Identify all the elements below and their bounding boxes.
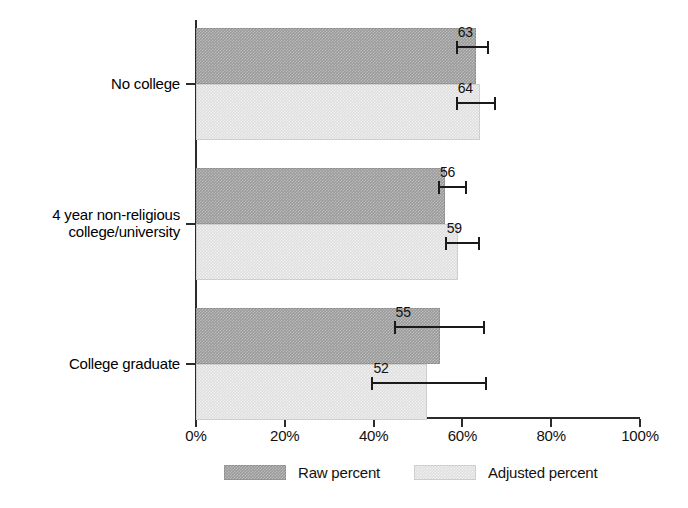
x-tick-label: 100% — [621, 427, 659, 444]
x-tick-label: 20% — [270, 427, 299, 444]
value-label-adjusted-0: 64 — [458, 80, 473, 96]
y-tick-1 — [186, 223, 195, 225]
x-tick-label: 60% — [448, 427, 477, 444]
error-bar-cap-adjusted-2 — [371, 377, 373, 390]
error-bar-cap-raw-2 — [483, 321, 485, 334]
error-bar-line-raw-1 — [438, 186, 467, 188]
y-tick-0 — [186, 83, 195, 85]
x-tick-0 — [195, 419, 197, 427]
legend-swatch-adjusted-percent — [414, 465, 476, 480]
bar-chart: 0%20%40%60%80%100% No college4 year non-… — [0, 0, 688, 508]
error-bar-cap-adjusted-0 — [494, 97, 496, 110]
error-bar-cap-raw-0 — [487, 41, 489, 54]
error-bar-cap-raw-1 — [438, 181, 440, 194]
error-bar-cap-adjusted-1 — [445, 237, 447, 250]
error-bar-cap-adjusted-1 — [478, 237, 480, 250]
value-label-raw-0: 63 — [458, 24, 473, 40]
error-bar-cap-adjusted-0 — [456, 97, 458, 110]
x-tick-label: 0% — [185, 427, 206, 444]
category-label-line: 4 year non-religious — [0, 206, 180, 223]
error-bar-line-adjusted-2 — [371, 382, 486, 384]
error-bar-cap-raw-0 — [456, 41, 458, 54]
x-tick-20 — [284, 419, 286, 427]
error-bar-cap-raw-1 — [465, 181, 467, 194]
x-tick-label: 40% — [359, 427, 388, 444]
category-label-line: college/university — [0, 223, 180, 240]
legend-swatch-raw-percent — [224, 465, 286, 480]
error-bar-line-raw-0 — [456, 46, 489, 48]
bar-raw-1 — [196, 168, 445, 224]
legend-item-adjusted-percent: Adjusted percent — [414, 464, 597, 481]
legend-label-adjusted-percent: Adjusted percent — [488, 464, 597, 481]
bar-raw-0 — [196, 28, 476, 84]
bar-adjusted-0 — [196, 84, 480, 140]
x-tick-60 — [461, 419, 463, 427]
x-tick-40 — [373, 419, 375, 427]
error-bar-cap-raw-2 — [394, 321, 396, 334]
x-tick-100 — [639, 419, 641, 427]
legend-label-raw-percent: Raw percent — [298, 464, 380, 481]
value-label-raw-2: 55 — [396, 304, 411, 320]
error-bar-line-raw-2 — [394, 326, 485, 328]
x-tick-label: 80% — [536, 427, 565, 444]
bar-adjusted-2 — [196, 364, 427, 420]
error-bar-line-adjusted-0 — [456, 102, 496, 104]
chart-legend: Raw percent Adjusted percent — [224, 464, 597, 481]
category-label-line: No college — [0, 75, 180, 92]
bar-adjusted-1 — [196, 224, 458, 280]
error-bar-cap-adjusted-2 — [485, 377, 487, 390]
value-label-adjusted-1: 59 — [447, 220, 462, 236]
category-label-0: No college — [0, 75, 184, 92]
x-tick-80 — [550, 419, 552, 427]
category-label-2: College graduate — [0, 355, 184, 372]
y-tick-2 — [186, 363, 195, 365]
legend-item-raw-percent: Raw percent — [224, 464, 380, 481]
category-label-1: 4 year non-religiouscollege/university — [0, 206, 184, 240]
value-label-adjusted-2: 52 — [373, 360, 388, 376]
category-label-line: College graduate — [0, 355, 180, 372]
error-bar-line-adjusted-1 — [445, 242, 481, 244]
value-label-raw-1: 56 — [440, 164, 455, 180]
